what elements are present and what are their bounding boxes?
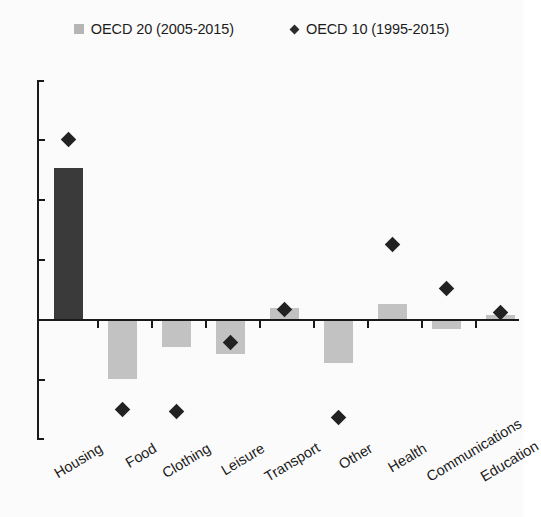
x-axis-tick-1 [97,321,99,328]
x-axis-tick-2 [151,321,153,328]
bar-communications [432,321,461,329]
legend-diamond-marker-icon [290,24,300,34]
legend-label-oecd10: OECD 10 (1995-2015) [306,21,449,37]
bar-health [378,304,407,319]
x-axis-tick-6 [367,321,369,328]
marker-housing [61,132,77,148]
legend-square-marker-icon [74,24,84,34]
marker-communications [439,281,455,297]
legend-entry-oecd20: OECD 20 (2005-2015) [74,21,234,37]
legend-label-oecd20: OECD 20 (2005-2015) [91,21,234,37]
x-axis-tick-5 [313,321,315,328]
y-axis-tick-4 [39,199,45,201]
x-axis-tick-7 [421,321,423,328]
x-label-leisure: Leisure [208,440,268,485]
marker-health [385,237,401,253]
x-label-transport: Transport [262,440,322,485]
chart-legend: OECD 20 (2005-2015) OECD 10 (1995-2015) [0,14,523,44]
y-axis-tick-neg2 [39,379,45,381]
plot-area [37,80,519,440]
x-axis-tick-4 [259,321,261,328]
bar-food [108,321,137,379]
y-axis-top-cap [37,80,44,82]
bar-other [324,321,353,363]
x-label-communications: Communications [424,440,484,485]
bar-clothing [162,321,191,347]
x-label-health: Health [370,440,430,485]
marker-clothing [169,404,185,420]
bar-housing [54,168,83,319]
marker-food [115,402,131,418]
x-label-food: Food [100,440,160,485]
legend-entry-oecd10: OECD 10 (1995-2015) [290,21,449,37]
x-label-housing: Housing [46,440,106,485]
marker-other [331,410,347,426]
x-label-clothing: Clothing [154,440,214,485]
x-axis-tick-8 [475,321,477,328]
y-axis-tick-6 [39,139,45,141]
x-label-other: Other [316,440,376,485]
x-axis-tick-3 [205,321,207,328]
x-axis-labels: Housing Food Clothing Leisure Transport … [37,440,519,517]
y-axis-tick-2 [39,259,45,261]
